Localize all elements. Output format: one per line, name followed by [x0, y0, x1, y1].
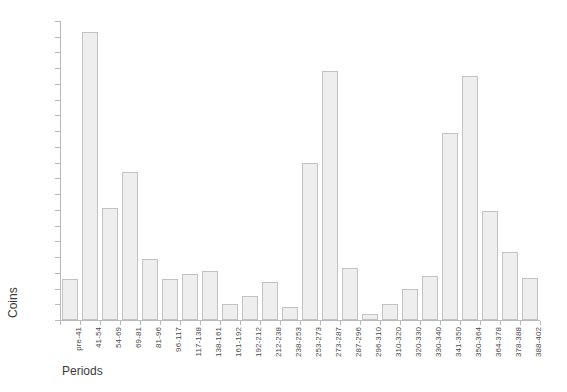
bar: [302, 163, 318, 320]
bar: [242, 296, 258, 320]
x-axis-title: Periods: [62, 364, 103, 378]
x-axis-tick-mark: [260, 321, 261, 325]
x-axis-category-label: 364-378: [494, 327, 503, 357]
x-axis-tick-mark: [460, 321, 461, 325]
y-axis-title: Coins: [6, 287, 20, 318]
x-axis-category-label: 81-96: [154, 327, 163, 348]
bar: [122, 172, 138, 320]
x-axis-tick-mark: [540, 321, 541, 325]
x-axis-category-label: 117-138: [194, 327, 203, 356]
bar: [82, 32, 98, 320]
bar: [102, 208, 118, 320]
x-axis-category-label: 138-161: [214, 327, 223, 357]
x-axis-category-label: 41-54: [94, 327, 103, 348]
x-axis-tick-mark: [200, 321, 201, 325]
bar: [502, 252, 518, 320]
x-axis-category-label: 330-340: [434, 327, 443, 357]
x-axis-tick-mark: [180, 321, 181, 325]
x-axis-tick-mark: [220, 321, 221, 325]
x-axis-tick-mark: [520, 321, 521, 325]
bar: [162, 279, 178, 320]
bar: [402, 289, 418, 320]
x-axis-category-label: pre-41: [74, 327, 83, 351]
x-axis-tick-mark: [340, 321, 341, 325]
x-axis-category-label: 320-330: [414, 327, 423, 357]
x-axis-tick-mark: [60, 321, 61, 325]
bar: [342, 268, 358, 320]
x-axis-category-label: 350-364: [474, 327, 483, 357]
x-axis-category-label: 296-310: [374, 327, 383, 357]
x-axis-category-label: 212-238: [274, 327, 283, 357]
x-axis-tick-mark: [140, 321, 141, 325]
bar: [462, 76, 478, 320]
x-axis-tick-mark: [420, 321, 421, 325]
x-axis-tick-mark: [280, 321, 281, 325]
bar: [482, 211, 498, 320]
x-axis-tick-mark: [480, 321, 481, 325]
x-axis-category-label: 273-287: [334, 327, 343, 357]
plot-area: [60, 20, 540, 320]
x-axis-tick-mark: [120, 321, 121, 325]
x-axis-tick-mark: [380, 321, 381, 325]
x-axis-tick-mark: [360, 321, 361, 325]
x-axis-category-label: 253-273: [314, 327, 323, 357]
x-axis-category-label: 287-296: [354, 327, 363, 357]
x-axis-category-label: 96-117: [174, 327, 183, 352]
x-axis-tick-mark: [500, 321, 501, 325]
bar: [202, 271, 218, 320]
x-axis-category-label: 192-212: [254, 327, 263, 357]
bar: [222, 304, 238, 320]
x-axis-tick-mark: [80, 321, 81, 325]
x-axis-category-label: 54-69: [114, 327, 123, 348]
bar: [282, 307, 298, 320]
bar: [442, 133, 458, 320]
bar: [522, 278, 538, 320]
bar: [182, 274, 198, 320]
bar: [322, 71, 338, 320]
bar: [142, 259, 158, 320]
x-axis-tick-mark: [300, 321, 301, 325]
x-axis-tick-mark: [440, 321, 441, 325]
x-axis-tick-mark: [100, 321, 101, 325]
x-axis-tick-mark: [400, 321, 401, 325]
x-axis-tick-mark: [160, 321, 161, 325]
x-axis-category-label: 161-192: [234, 327, 243, 357]
bar: [262, 282, 278, 320]
bar: [362, 314, 378, 320]
bar-chart: 0102030405060708090100110120130140150160…: [0, 0, 567, 392]
x-axis-tick-mark: [320, 321, 321, 325]
x-axis-category-label: 238-253: [294, 327, 303, 357]
x-axis-category-label: 341-350: [454, 327, 463, 357]
x-axis-tick-mark: [240, 321, 241, 325]
x-axis-category-label: 388-402: [534, 327, 543, 357]
bar: [62, 279, 78, 320]
x-axis-category-label: 310-320: [394, 327, 403, 357]
x-axis-category-label: 69-81: [134, 327, 143, 348]
bar: [422, 276, 438, 320]
bar: [382, 304, 398, 320]
x-axis-category-label: 378-388: [514, 327, 523, 357]
